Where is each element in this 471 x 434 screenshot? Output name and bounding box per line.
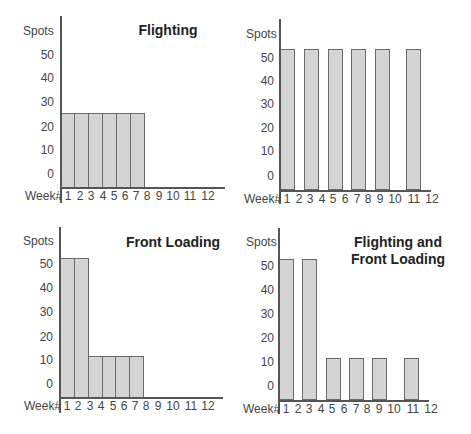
bar-week-6: [129, 356, 144, 398]
x-tick: 9: [372, 192, 388, 206]
x-axis-label: Week#: [25, 189, 62, 203]
x-tick: 10: [386, 402, 402, 416]
bar-week-3: [88, 113, 103, 188]
y-tick: 10: [244, 144, 274, 158]
x-axis-label: Week#: [244, 192, 281, 206]
bar-week-1: [60, 258, 75, 398]
y-tick: 50: [244, 51, 274, 65]
chart-title: Flighting and Front Loading: [343, 234, 453, 268]
x-axis-label: Week#: [243, 402, 280, 416]
bar-week-2: [74, 258, 89, 398]
y-tick: 0: [244, 379, 274, 393]
y-tick: 30: [24, 95, 54, 109]
bar-week-5: [328, 49, 343, 190]
bar-week-3: [302, 259, 317, 400]
x-tick: 9: [371, 402, 387, 416]
x-tick: 12: [424, 192, 440, 206]
y-tick: 30: [244, 97, 274, 111]
x-tick: 10: [387, 192, 403, 206]
bar-week-4: [102, 113, 117, 188]
y-tick: 20: [244, 121, 274, 135]
y-tick: 20: [244, 331, 274, 345]
y-tick: 20: [23, 330, 53, 344]
x-tick: 12: [200, 399, 216, 413]
y-tick: 10: [23, 353, 53, 367]
y-tick: 50: [244, 259, 274, 273]
x-tick: 9: [150, 399, 166, 413]
y-tick: 30: [244, 307, 274, 321]
y-tick: 50: [24, 48, 54, 62]
x-tick: 11: [406, 192, 422, 206]
y-tick: 20: [24, 120, 54, 134]
x-tick: 12: [423, 402, 439, 416]
y-axis: [279, 19, 281, 204]
y-tick: 0: [244, 169, 274, 183]
bar-week-1: [280, 49, 295, 190]
y-axis-label: Spots: [23, 24, 54, 38]
bar-week-5: [115, 356, 130, 398]
y-axis-label: Spots: [246, 27, 277, 41]
chart-title-line-2: Front Loading: [343, 251, 453, 268]
bar-week-9: [372, 358, 387, 400]
y-tick: 0: [24, 167, 54, 181]
bar-week-2: [74, 113, 89, 188]
y-tick: 50: [23, 257, 53, 271]
chart-title-line-1: Flighting and: [343, 234, 453, 251]
x-tick: 10: [165, 189, 181, 203]
x-axis-label: Week#: [24, 399, 61, 413]
y-axis: [278, 228, 280, 414]
bar-week-11: [404, 358, 419, 400]
bar-week-9: [375, 49, 390, 190]
y-axis-label: Spots: [246, 235, 277, 249]
bar-week-7: [349, 358, 364, 400]
bar-week-5: [326, 358, 341, 400]
bar-week-3: [304, 49, 319, 190]
bar-week-3: [88, 356, 103, 398]
y-tick: 10: [244, 355, 274, 369]
bar-week-7: [351, 49, 366, 190]
bar-week-5: [116, 113, 131, 188]
chart-title: Front Loading: [118, 234, 228, 251]
bar-week-1: [279, 259, 294, 400]
y-tick: 40: [24, 71, 54, 85]
y-tick: 40: [244, 283, 274, 297]
bar-week-6: [130, 113, 145, 188]
y-axis-label: Spots: [23, 234, 54, 248]
y-axis: [60, 16, 62, 203]
y-tick: 10: [24, 143, 54, 157]
y-tick: 40: [23, 281, 53, 295]
bar-week-1: [61, 113, 75, 188]
y-tick: 0: [23, 377, 53, 391]
chart-title: Flighting: [118, 22, 218, 39]
x-tick: 10: [165, 399, 181, 413]
y-tick: 40: [244, 74, 274, 88]
x-tick: 11: [182, 189, 198, 203]
y-axis: [59, 227, 61, 413]
x-tick: 11: [183, 399, 199, 413]
x-tick: 11: [405, 402, 421, 416]
y-tick: 30: [23, 305, 53, 319]
x-tick: 12: [200, 189, 216, 203]
bar-week-11: [406, 49, 421, 190]
